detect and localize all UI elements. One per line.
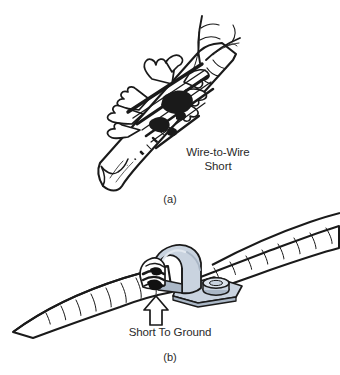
label-wire-to-wire-short: Wire-to-Wire Short xyxy=(170,146,266,173)
panel-b-artwork xyxy=(13,213,340,338)
label-wire-to-wire-line2: Short xyxy=(170,160,266,174)
caption-panel-b: (b) xyxy=(150,351,190,364)
callout-arrow-b xyxy=(144,296,168,325)
figure-root: Wire-to-Wire Short (a) Short To Ground (… xyxy=(0,0,340,375)
pinched-conductors-b xyxy=(140,258,165,290)
label-short-to-ground: Short To Ground xyxy=(103,326,237,340)
diagram-illustration xyxy=(0,0,340,375)
label-wire-to-wire-line1: Wire-to-Wire xyxy=(170,146,266,160)
caption-panel-a: (a) xyxy=(150,193,190,206)
bolt-head-b xyxy=(203,278,229,295)
